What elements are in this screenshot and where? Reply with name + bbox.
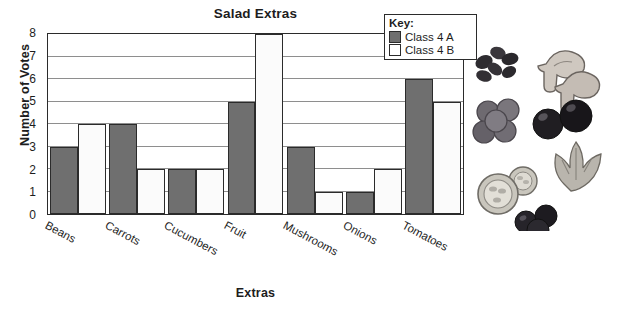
salad-ingredients-illustration [468, 36, 618, 231]
black-olives-cluster-icon [515, 205, 557, 231]
bar-mushrooms-b [315, 192, 343, 215]
y-tick-label: 2 [29, 163, 36, 177]
bar-group [285, 34, 344, 214]
x-axis-title: Extras [47, 286, 464, 300]
bar-groups [48, 34, 463, 214]
bar-group [226, 34, 285, 214]
x-tick-label: Fruit [222, 219, 248, 240]
legend-title: Key: [389, 17, 472, 30]
legend-entries: Class 4 AClass 4 B [389, 31, 472, 56]
lettuce-icon [555, 142, 601, 191]
y-tick-label: 5 [29, 94, 36, 108]
y-axis-ticks: 012345678 [0, 33, 41, 215]
x-tick-label: Onions [341, 219, 379, 247]
filled-gray-swatch [389, 31, 401, 43]
bar-group [48, 34, 107, 214]
bar-beans-a [50, 147, 78, 215]
y-tick-label: 7 [29, 49, 36, 63]
black-beans-icon [473, 45, 519, 84]
y-tick-label: 3 [29, 140, 36, 154]
legend-entry: Class 4 A [389, 31, 472, 43]
x-tick-label: Mushrooms [282, 219, 341, 258]
bar-onions-a [346, 192, 374, 215]
bar-group [404, 34, 463, 214]
bar-beans-b [78, 124, 106, 214]
bar-fruit-b [255, 34, 283, 214]
legend-entry: Class 4 B [389, 44, 472, 56]
plot-area [47, 33, 464, 215]
bar-fruit-a [228, 102, 256, 215]
bar-tomatoes-b [433, 102, 461, 215]
y-tick-label: 8 [29, 26, 36, 40]
bar-mushrooms-a [287, 147, 315, 215]
x-tick-label: Carrots [103, 219, 142, 247]
x-axis-tick-labels: BeansCarrotsCucumbersFruitMushroomsOnion… [47, 215, 464, 277]
bar-cucumbers-a [168, 169, 196, 214]
legend-entry-label: Class 4 A [405, 31, 454, 43]
empty-white-swatch [389, 44, 401, 56]
cucumber-slices-icon [478, 167, 537, 214]
x-tick-label: Tomatoes [401, 219, 451, 253]
grapes-icon [473, 99, 519, 143]
bar-carrots-b [137, 169, 165, 214]
chart-figure: Salad Extras Number of Votes 012345678 B… [0, 0, 620, 314]
chart-legend: Key: Class 4 AClass 4 B [384, 14, 477, 60]
x-tick-label: Cucumbers [163, 219, 221, 257]
bar-carrots-a [109, 124, 137, 214]
bar-cucumbers-b [196, 169, 224, 214]
bar-tomatoes-a [405, 79, 433, 214]
y-tick-label: 6 [29, 72, 36, 86]
legend-entry-label: Class 4 B [405, 44, 454, 56]
bar-group [344, 34, 403, 214]
bar-onions-b [374, 169, 402, 214]
x-tick-label: Beans [43, 219, 77, 245]
y-tick-label: 0 [29, 208, 36, 222]
bar-group [167, 34, 226, 214]
y-tick-label: 1 [29, 185, 36, 199]
bar-group [107, 34, 166, 214]
y-tick-label: 4 [29, 117, 36, 131]
